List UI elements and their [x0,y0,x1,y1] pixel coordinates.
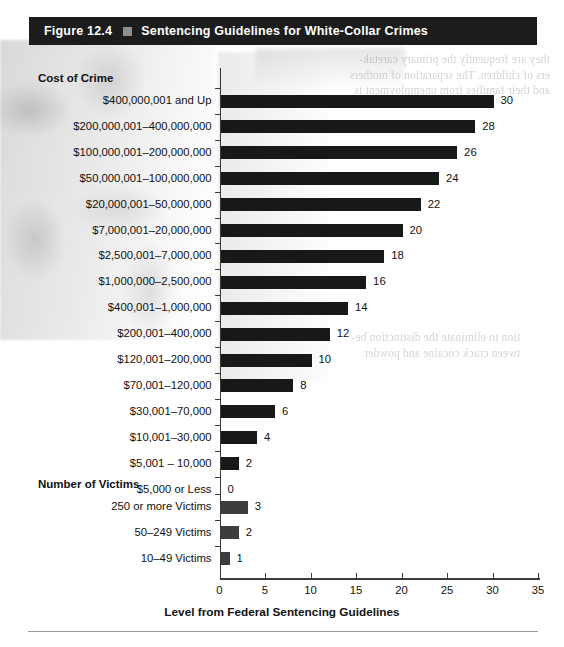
category-label: $7,000,001–20,000,000 [30,224,212,236]
category-label: 10–49 Victims [30,552,212,564]
y-axis-tick [215,88,220,89]
bar [221,379,294,392]
x-axis-tick-label: 20 [387,584,417,596]
bar-value-label: 3 [255,500,261,512]
x-axis-tick [220,573,221,578]
y-axis-tick [215,114,220,115]
category-label: 250 or more Victims [30,500,212,512]
x-axis-tick [447,573,448,578]
y-axis-tick [215,520,220,521]
bar-value-label: 20 [410,224,423,236]
x-axis-line [220,578,541,580]
y-axis-tick [215,451,220,452]
y-axis-tick [215,399,220,400]
x-axis-tick-label: 5 [250,584,280,596]
bar-value-label: 18 [391,249,404,261]
category-label: 50–249 Victims [30,526,212,538]
category-label: $400,000,001 and Up [30,94,212,106]
bar-value-label: 10 [319,353,332,365]
bar [221,250,385,263]
bar [221,276,367,289]
bar [221,328,330,341]
bar [221,198,421,211]
bar [221,501,248,514]
bar-value-label: 26 [464,146,477,158]
bar-value-label: 22 [428,198,441,210]
y-axis-tick [215,425,220,426]
category-label: $10,001–30,000 [30,431,212,443]
x-axis-tick-label: 25 [432,584,462,596]
bar [221,120,476,133]
x-axis-tick [538,573,539,578]
bar [221,405,276,418]
x-axis-tick [265,573,266,578]
bar-value-label: 12 [337,327,350,339]
category-label: $50,000,001–100,000,000 [30,172,212,184]
y-axis-tick [215,166,220,167]
category-label: $30,001–70,000 [30,405,212,417]
bar-chart: Cost of Crime Number of Victims $400,000… [0,0,564,647]
bar-value-label: 30 [501,94,514,106]
category-label: $20,000,001–50,000,000 [30,198,212,210]
category-label: $1,000,000–2,500,000 [30,275,212,287]
bar-value-label: 2 [246,526,252,538]
bar [221,302,348,315]
x-axis-tick-label: 10 [296,584,326,596]
x-axis-title: Level from Federal Sentencing Guidelines [0,605,564,619]
x-axis-tick-label: 15 [341,584,371,596]
bar-value-label: 16 [373,275,386,287]
x-axis-tick [356,573,357,578]
y-axis-tick [215,192,220,193]
bar [221,95,494,108]
bar [221,172,439,185]
x-axis-tick-label: 0 [205,584,235,596]
x-axis-tick [311,573,312,578]
bar-value-label: 28 [482,120,495,132]
group-title-cost-of-crime: Cost of Crime [38,72,113,84]
bar-value-label: 6 [282,405,288,417]
category-label: $5,001 – 10,000 [30,457,212,469]
y-axis-tick [215,269,220,270]
category-label: $120,001–200,000 [30,353,212,365]
x-axis-tick-label: 35 [523,584,553,596]
bar [221,526,239,539]
category-label: $70,001–120,000 [30,379,212,391]
bar [221,552,230,565]
bar-value-label: 14 [355,301,368,313]
x-axis-tick-label: 30 [478,584,508,596]
category-label: $5,000 or Less [30,483,212,495]
bar-value-label: 0 [228,483,234,495]
y-axis-tick [215,321,220,322]
bar-value-label: 4 [264,431,270,443]
y-axis-tick [215,546,220,547]
bar [221,224,403,237]
category-label: $100,000,001–200,000,000 [30,146,212,158]
y-axis-tick [215,243,220,244]
y-axis-tick [215,140,220,141]
footer-divider [28,631,538,632]
y-axis-tick [215,494,220,495]
y-axis-tick [215,347,220,348]
bar [221,457,239,470]
y-axis-tick [215,295,220,296]
bar [221,354,312,367]
category-label: $400,001–1,000,000 [30,301,212,313]
x-axis-tick [402,573,403,578]
category-label: $2,500,001–7,000,000 [30,249,212,261]
bar-value-label: 8 [300,379,306,391]
bar [221,431,257,444]
bar-value-label: 1 [237,552,243,564]
bar-value-label: 2 [246,457,252,469]
bar-value-label: 24 [446,172,459,184]
y-axis-tick [215,373,220,374]
category-label: $200,000,001–400,000,000 [30,120,212,132]
y-axis-tick [215,477,220,478]
x-axis-tick [493,573,494,578]
bar [221,146,458,159]
y-axis-tick [215,218,220,219]
category-label: $200,001–400,000 [30,327,212,339]
